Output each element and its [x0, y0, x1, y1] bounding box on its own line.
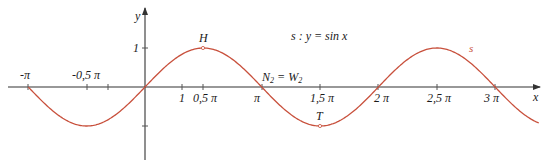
point-T	[318, 124, 321, 127]
label-N2-W2: N2 = W2	[261, 70, 302, 85]
tick-label-2-5-pi: 2,5 π	[427, 91, 452, 105]
tick-label-one-x: 1	[179, 91, 185, 105]
label-T: T	[316, 109, 324, 123]
y-axis-label: y	[134, 9, 141, 23]
tick-label-3-pi: 3 π	[483, 91, 500, 105]
x-axis-label: x	[532, 90, 539, 104]
point-H	[201, 46, 204, 49]
tick-label-pi: π	[254, 91, 261, 105]
tick-label-neg-half-pi: -0,5 π	[72, 68, 101, 82]
label-H: H	[198, 31, 209, 45]
tick-label-half-pi: 0,5 π	[193, 91, 218, 105]
curve-name-label: s	[469, 42, 473, 54]
tick-label-neg-pi: -π	[20, 68, 31, 82]
tick-label-one-y: 1	[133, 41, 139, 55]
equation-label: s : y = sin x	[291, 29, 348, 43]
tick-label-2-pi: 2 π	[374, 91, 390, 105]
sine-chart: y x -π -0,5 π 1 0,5 π π 1,5 π 2 π 2,5 π …	[0, 0, 550, 166]
tick-label-1-5-pi: 1,5 π	[310, 91, 335, 105]
